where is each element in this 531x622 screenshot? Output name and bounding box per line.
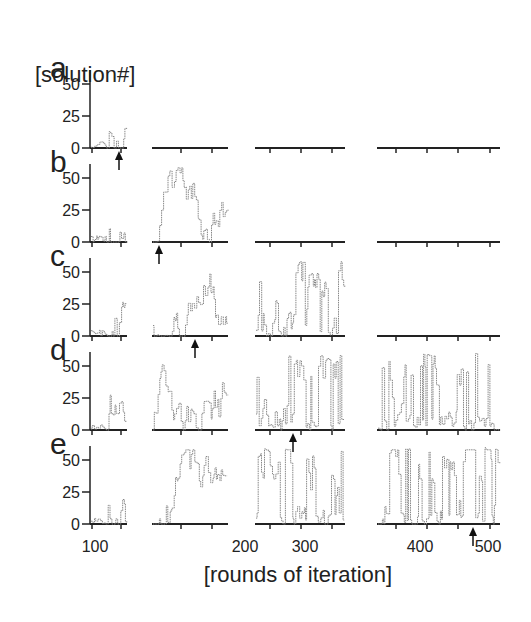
panel-d-3: [255, 356, 345, 435]
panel-a-3: [255, 148, 345, 153]
panel-rows: a02550b02550c02550d02550e02550: [50, 51, 500, 546]
panel-b-3: [255, 242, 345, 247]
panel-a-1: [90, 128, 127, 153]
y-tick-label: 25: [62, 108, 80, 125]
panel-e-3: [255, 449, 345, 529]
y-tick-label: 25: [62, 296, 80, 313]
panel-row-b: b02550: [50, 145, 500, 264]
termination-arrow-icon: [115, 151, 123, 170]
panel-c-4: [377, 336, 500, 341]
panel-a-2: [152, 148, 228, 153]
y-tick-label: 0: [71, 328, 80, 345]
y-tick-label: 50: [62, 358, 80, 375]
y-tick-label: 0: [71, 516, 80, 533]
x-tick-label: 300: [292, 538, 319, 555]
panel-d-1: [90, 395, 127, 435]
y-tick-label: 0: [71, 234, 80, 251]
y-tick-label: 0: [71, 422, 80, 439]
panel-e-2: [152, 450, 228, 529]
y-tick-label: 50: [62, 76, 80, 93]
y-tick-label: 0: [71, 140, 80, 157]
panel-e-4: [377, 448, 500, 529]
panel-row-c: c02550: [50, 239, 500, 358]
panel-c-2: [152, 274, 228, 341]
x-tick-label: 400: [407, 538, 434, 555]
x-tick-labels: 100200300400500: [82, 538, 502, 555]
panel-b-2: [152, 168, 229, 247]
x-tick-label: 500: [475, 538, 502, 555]
panel-row-e: e02550: [50, 427, 500, 546]
panel-c-3: [255, 262, 346, 341]
panel-b-1: [90, 229, 128, 247]
x-tick-label: 100: [82, 538, 109, 555]
panel-a-4: [377, 148, 500, 153]
x-tick-label: 200: [232, 538, 259, 555]
x-axis-title: [rounds of iteration]: [204, 562, 392, 587]
panel-e-1: [90, 500, 128, 530]
panel-d-4: [377, 354, 500, 435]
y-tick-label: 25: [62, 484, 80, 501]
y-tick-label: 25: [62, 202, 80, 219]
panel-d-2: [152, 365, 229, 435]
panel-b-4: [377, 242, 500, 247]
termination-arrow-icon: [289, 433, 297, 452]
y-tick-label: 50: [62, 452, 80, 469]
y-tick-label: 50: [62, 264, 80, 281]
termination-arrow-icon: [155, 245, 163, 264]
figure: [solution#] a02550b02550c02550d02550e025…: [0, 0, 531, 622]
panel-row-d: d02550: [50, 333, 500, 452]
termination-arrow-icon: [191, 339, 199, 358]
panel-c-1: [90, 302, 127, 341]
y-tick-label: 50: [62, 170, 80, 187]
y-tick-label: 25: [62, 390, 80, 407]
